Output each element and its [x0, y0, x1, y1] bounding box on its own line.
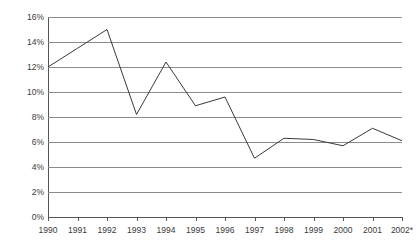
x-tick-label: 2000: [334, 225, 353, 235]
x-tick-label: 1992: [98, 225, 117, 235]
x-tick-mark: [196, 217, 197, 221]
x-tick-label: 1998: [275, 225, 294, 235]
x-tick-label: 2001: [363, 225, 382, 235]
x-tick-mark: [402, 217, 403, 221]
line-chart: 16%14%12%10%8%6%4%2%0% 19901991199219931…: [0, 0, 416, 245]
x-tick-label: 1993: [127, 225, 146, 235]
x-tick-mark: [225, 217, 226, 221]
x-tick-mark: [48, 217, 49, 221]
x-tick-label: 1999: [304, 225, 323, 235]
x-tick-mark: [373, 217, 374, 221]
x-tick-label: 1990: [39, 225, 58, 235]
x-tick-mark: [255, 217, 256, 221]
x-axis-tick-labels: 1990199119921993199419951996199719981999…: [0, 225, 416, 239]
x-tick-label: 1994: [157, 225, 176, 235]
x-tick-label: 1991: [68, 225, 87, 235]
data-series-line: [48, 30, 402, 159]
data-series-layer: [0, 0, 416, 245]
x-tick-mark: [314, 217, 315, 221]
x-tick-mark: [78, 217, 79, 221]
x-tick-mark: [343, 217, 344, 221]
x-tick-label: 1995: [186, 225, 205, 235]
x-tick-mark: [166, 217, 167, 221]
x-tick-label: 1997: [245, 225, 264, 235]
x-tick-mark: [107, 217, 108, 221]
x-tick-mark: [137, 217, 138, 221]
x-tick-label: 2002*: [391, 225, 413, 235]
x-tick-mark: [284, 217, 285, 221]
x-tick-label: 1996: [216, 225, 235, 235]
